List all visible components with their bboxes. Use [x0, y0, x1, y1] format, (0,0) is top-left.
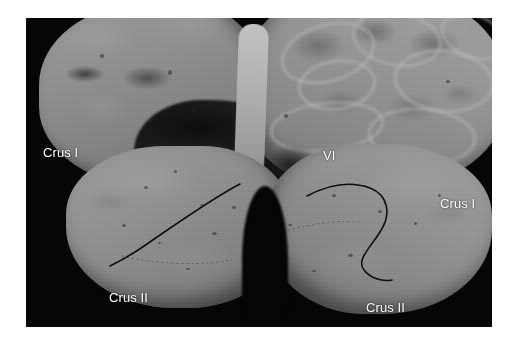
tissue-speck: [378, 210, 382, 213]
tissue-speck: [312, 270, 316, 272]
tissue-speck: [158, 242, 161, 244]
tissue-speck: [186, 268, 190, 270]
figure-page: Crus I Crus I Crus II Crus II VI: [0, 0, 515, 349]
label-crus-i-left: Crus I: [43, 146, 78, 159]
tissue-speck: [232, 206, 236, 209]
tissue-speck: [446, 80, 450, 83]
tissue-speck: [100, 54, 104, 58]
tissue-speck: [144, 186, 148, 189]
tissue-speck: [200, 204, 205, 207]
tissue-speck: [348, 254, 353, 257]
tissue-speck: [174, 170, 177, 173]
tissue-speck: [288, 224, 292, 226]
tissue-speck: [168, 70, 172, 75]
label-crus-i-right: Crus I: [440, 197, 475, 210]
label-crus-ii-left: Crus II: [109, 291, 148, 304]
tissue-speck: [122, 224, 126, 227]
tissue-speck: [212, 232, 217, 235]
tissue-speck: [414, 222, 417, 225]
right-cerebellar-hemisphere: [264, 144, 492, 314]
anatomical-photograph-plate: [26, 18, 492, 327]
label-crus-ii-right: Crus II: [366, 301, 405, 314]
tissue-speck: [284, 114, 288, 118]
tissue-speck: [192, 108, 196, 112]
tissue-speck: [332, 194, 336, 197]
label-vermis-lobule-vi: VI: [323, 149, 335, 162]
